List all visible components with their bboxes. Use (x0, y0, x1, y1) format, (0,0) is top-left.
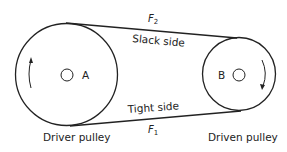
driven-pulley-caption: Driven pulley (208, 131, 278, 143)
force-f2-label: F2 (148, 13, 158, 26)
pulley-a-label: A (82, 69, 90, 81)
pulley-b-hub (233, 69, 245, 81)
pulley-b-rim (203, 38, 276, 111)
arrowhead-up-icon (29, 57, 33, 63)
force-f1-label: F1 (148, 124, 158, 137)
arrowhead-down-icon (260, 84, 265, 90)
rotation-arrow-cw-icon (262, 60, 265, 86)
driven-pulley-b (203, 38, 276, 111)
belt-drive-diagram: A B F2 Slack side Tight side F1 Driver p… (0, 0, 287, 152)
rotation-arrow-ccw-icon (29, 60, 31, 88)
belt-tight-side-line (70, 111, 241, 126)
tight-side-label: Tight side (126, 99, 179, 115)
pulley-a-rim (16, 24, 118, 126)
slack-side-label: Slack side (132, 32, 186, 49)
driver-pulley-caption: Driver pulley (43, 131, 110, 143)
pulley-b-label: B (218, 69, 225, 81)
driver-pulley-a (16, 24, 118, 126)
pulley-a-hub (61, 69, 73, 81)
